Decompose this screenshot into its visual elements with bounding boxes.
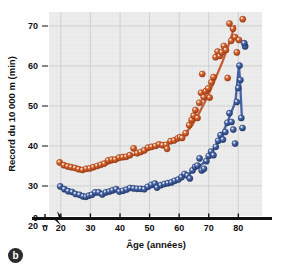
data-point-highlight	[78, 193, 80, 195]
data-point-highlight	[214, 145, 216, 147]
data-point-femmes	[164, 146, 170, 152]
data-point-highlight	[209, 150, 211, 152]
data-point-femmes	[201, 94, 207, 100]
data-point-highlight	[206, 86, 208, 88]
data-point-highlight	[192, 114, 194, 116]
data-point-hommes	[235, 85, 241, 91]
data-point-highlight	[222, 44, 224, 46]
data-point-highlight	[162, 182, 164, 184]
data-point-highlight	[128, 153, 130, 155]
data-point-highlight	[139, 150, 141, 152]
data-point-highlight	[173, 179, 175, 181]
x-axis-ticks: 020304050607080	[42, 214, 243, 234]
data-point-highlight	[114, 187, 116, 189]
data-point-highlight	[212, 75, 214, 77]
data-point-hommes	[238, 115, 244, 121]
data-point-highlight	[155, 186, 157, 188]
data-point-highlight	[230, 120, 232, 122]
data-point-highlight	[153, 182, 155, 184]
data-point-highlight	[117, 156, 119, 158]
data-point-highlight	[91, 165, 93, 167]
data-point-highlight	[95, 164, 97, 166]
data-point-highlight	[154, 144, 156, 146]
data-point-highlight	[241, 126, 243, 128]
data-point-highlight	[180, 136, 182, 138]
data-point-highlight	[90, 193, 92, 195]
data-point-femmes	[199, 71, 205, 77]
data-point-highlight	[198, 156, 200, 158]
data-point-highlight	[188, 176, 190, 178]
data-point-highlight	[208, 96, 210, 98]
x-tick-label: 40	[115, 223, 125, 233]
data-point-highlight	[128, 186, 130, 188]
y-axis-ticks: 0203040506070	[28, 21, 48, 231]
data-point-highlight	[216, 139, 218, 141]
data-point-hommes	[201, 166, 207, 172]
data-point-hommes	[226, 110, 232, 116]
data-point-highlight	[233, 35, 235, 37]
data-point-hommes	[228, 119, 234, 125]
y-tick-label: 30	[28, 181, 38, 191]
x-tick-label: 30	[85, 223, 95, 233]
data-point-femmes	[192, 107, 198, 113]
data-point-femmes	[194, 115, 200, 121]
x-tick-label: 80	[233, 223, 243, 233]
data-point-highlight	[200, 72, 202, 74]
data-point-highlight	[194, 108, 196, 110]
data-point-hommes	[187, 175, 193, 181]
data-point-highlight	[180, 175, 182, 177]
data-point-highlight	[228, 22, 230, 24]
data-point-highlight	[165, 147, 167, 149]
data-point-highlight	[183, 172, 185, 174]
data-point-highlight	[223, 130, 225, 132]
data-point-highlight	[62, 163, 64, 165]
data-point-highlight	[172, 138, 174, 140]
data-point-highlight	[235, 50, 237, 52]
data-point-highlight	[199, 91, 201, 93]
x-axis-title: Âge (années)	[126, 239, 186, 250]
data-point-highlight	[135, 151, 137, 153]
data-point-highlight	[110, 158, 112, 160]
data-point-highlight	[214, 55, 216, 57]
data-point-highlight	[111, 188, 113, 190]
data-point-highlight	[225, 121, 227, 123]
figure-panel: 0203040506070 020304050607080 Âge (année…	[0, 0, 284, 274]
data-point-highlight	[229, 39, 231, 41]
data-point-highlight	[202, 95, 204, 97]
data-point-hommes	[196, 155, 202, 161]
data-point-femmes	[225, 75, 231, 81]
data-point-highlight	[204, 159, 206, 161]
data-point-hommes	[222, 129, 228, 135]
data-point-highlight	[102, 162, 104, 164]
data-point-highlight	[228, 111, 230, 113]
data-point-highlight	[207, 154, 209, 156]
data-point-highlight	[81, 194, 83, 196]
y-tick-label: 60	[28, 61, 38, 71]
data-point-highlight	[66, 189, 68, 191]
data-point-highlight	[62, 187, 64, 189]
data-point-highlight	[191, 168, 193, 170]
data-point-highlight	[58, 160, 60, 162]
data-point-highlight	[88, 166, 90, 168]
data-point-highlight	[124, 155, 126, 157]
data-point-highlight	[231, 128, 233, 130]
data-point-highlight	[159, 183, 161, 185]
x-tick-label: 0	[42, 223, 47, 233]
y-tick-label: 50	[28, 101, 38, 111]
data-point-highlight	[170, 180, 172, 182]
data-point-femmes	[183, 130, 189, 136]
data-point-hommes	[241, 40, 247, 46]
data-point-highlight	[146, 146, 148, 148]
data-point-highlight	[242, 41, 244, 43]
data-point-femmes	[230, 26, 236, 32]
data-point-highlight	[106, 158, 108, 160]
data-point-highlight	[81, 168, 83, 170]
data-point-highlight	[97, 190, 99, 192]
data-point-highlight	[104, 190, 106, 192]
data-point-highlight	[113, 158, 115, 160]
data-point-highlight	[146, 185, 148, 187]
data-point-highlight	[100, 192, 102, 194]
data-point-hommes	[234, 99, 240, 105]
data-point-highlight	[196, 164, 198, 166]
data-point-highlight	[69, 165, 71, 167]
